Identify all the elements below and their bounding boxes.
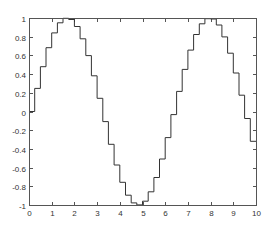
x-tick-label: 7 xyxy=(186,209,191,218)
x-tick-label: 8 xyxy=(209,209,214,218)
y-tick-label: 0.4 xyxy=(15,71,27,80)
x-axis-tick-labels: 012345678910 xyxy=(27,209,261,218)
y-tick-label: 0.2 xyxy=(15,90,27,99)
x-tick-label: 3 xyxy=(95,209,100,218)
y-tick-label: 1 xyxy=(22,15,27,24)
y-tick-label: 0.6 xyxy=(15,52,27,61)
y-axis-tick-labels: -1-0.8-0.6-0.4-0.200.20.40.60.81 xyxy=(12,15,26,211)
plot-area xyxy=(29,18,256,205)
x-tick-label: 0 xyxy=(27,209,32,218)
y-tick-label: -0.8 xyxy=(12,183,26,192)
x-tick-label: 6 xyxy=(163,209,168,218)
x-tick-label: 1 xyxy=(50,209,55,218)
stairs-chart: 012345678910 -1-0.8-0.6-0.4-0.200.20.40.… xyxy=(0,0,270,226)
y-tick-label: -0.4 xyxy=(12,146,26,155)
x-tick-label: 4 xyxy=(118,209,123,218)
x-tick-label: 5 xyxy=(141,209,146,218)
x-tick-label: 9 xyxy=(231,209,236,218)
y-tick-label: -0.6 xyxy=(12,165,26,174)
x-tick-label: 2 xyxy=(72,209,77,218)
y-tick-label: 0.8 xyxy=(15,34,27,43)
y-tick-label: -0.2 xyxy=(12,127,26,136)
x-tick-label: 10 xyxy=(252,209,261,218)
y-tick-label: -1 xyxy=(19,202,27,211)
y-tick-label: 0 xyxy=(22,109,27,118)
